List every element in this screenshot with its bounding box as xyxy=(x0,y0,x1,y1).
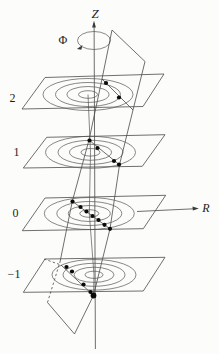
plane-level-minus-1: −1 xyxy=(8,257,165,298)
orbit-dot xyxy=(90,214,94,218)
orbit-convergence-dot xyxy=(91,293,97,299)
z-axis-label: Z xyxy=(91,6,99,21)
r-axis-line xyxy=(137,209,196,212)
phi-label: Φ xyxy=(59,33,68,47)
tilted-plane-hidden-edge xyxy=(48,262,61,303)
level-label-2: 2 xyxy=(10,91,16,105)
plane-level-0: 0 xyxy=(13,195,166,231)
orbit-dot xyxy=(70,269,74,273)
phi-rotation: Φ xyxy=(59,32,111,50)
level-label-0: 0 xyxy=(13,206,19,220)
orbit-dot xyxy=(70,199,74,203)
r-axis-arrowhead xyxy=(193,207,199,211)
level-label-minus-1: −1 xyxy=(8,267,21,281)
hidden-intersection-line xyxy=(44,259,61,265)
level-label-1: 1 xyxy=(14,145,20,159)
plane-1-surface xyxy=(23,135,165,168)
plane-level-1: 1 xyxy=(14,135,166,169)
orbit-dot xyxy=(78,205,82,209)
orbit-dot xyxy=(117,95,121,99)
z-axis-line xyxy=(94,23,95,349)
orbit-dot xyxy=(81,282,85,286)
orbit-dot xyxy=(95,146,99,150)
orbit-dot xyxy=(102,223,106,227)
orbit-center-line xyxy=(88,95,94,296)
orbit-dot xyxy=(104,81,108,85)
orbit-dot xyxy=(84,209,88,213)
orbit-dot xyxy=(117,162,121,166)
intersection-line xyxy=(61,265,94,296)
r-axis-label: R xyxy=(201,201,210,215)
diagram-canvas: Z Φ 2 xyxy=(0,0,219,354)
orbit-dot xyxy=(96,218,100,222)
orbit-dot xyxy=(112,159,116,163)
orbit-dot xyxy=(108,227,112,231)
phi-arrowhead xyxy=(77,45,83,50)
r-axis: R xyxy=(137,201,210,215)
orbit-dot xyxy=(87,138,91,142)
z-axis-arrowhead xyxy=(92,21,96,28)
cylindrical-levels-diagram: Z Φ 2 xyxy=(0,0,219,354)
orbit-dot xyxy=(64,265,68,269)
